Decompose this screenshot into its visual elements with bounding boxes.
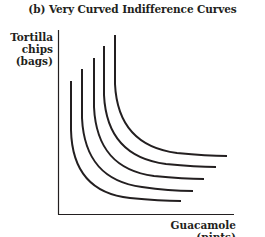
indifference-curve-plot xyxy=(0,0,265,237)
curve-group xyxy=(71,35,227,201)
x-axis-label: Guacamole (pints) xyxy=(132,219,236,237)
indifference-curve-5 xyxy=(115,35,227,156)
